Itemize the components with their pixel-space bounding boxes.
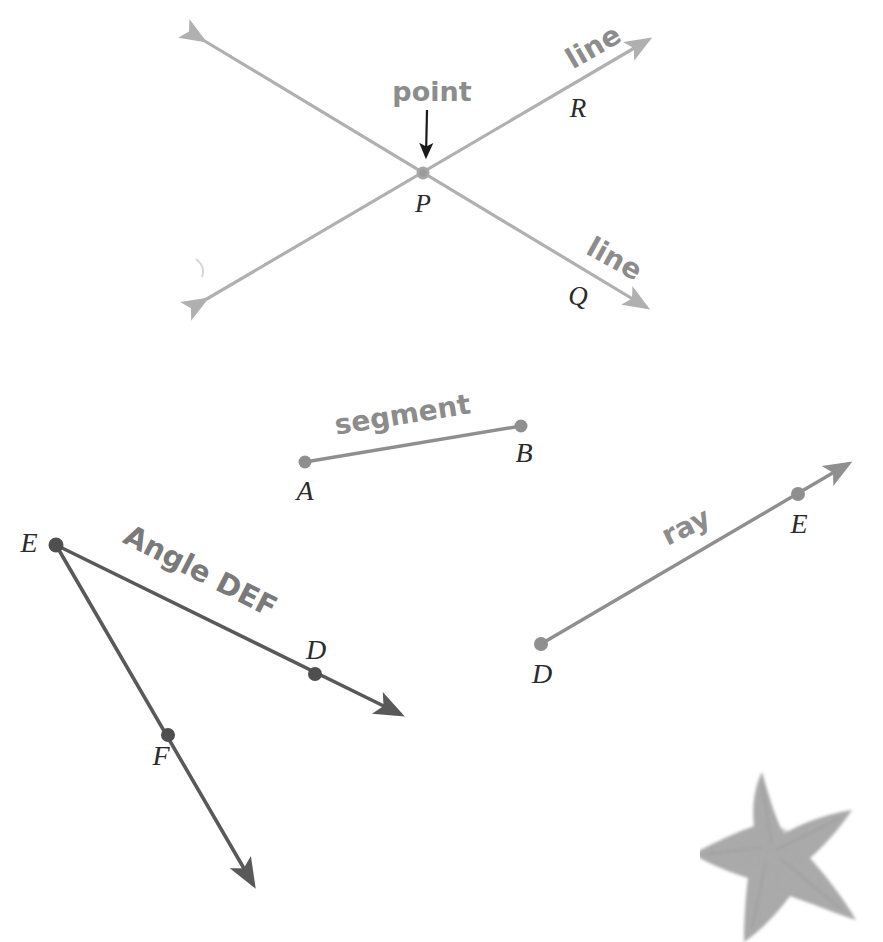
ray-term-label: ray <box>656 501 715 553</box>
ray-endpoint-d-dot <box>534 637 548 651</box>
angle-vertex-e-dot <box>49 538 64 553</box>
line-q-term-label: line <box>581 230 648 287</box>
angle-point-f-label: F <box>151 740 170 771</box>
point-d-dot <box>308 667 322 681</box>
point-a-label: A <box>294 475 314 506</box>
line-r-name-label: R <box>569 93 587 123</box>
point-a-dot <box>299 456 312 469</box>
geometry-diagram-canvas: point P line R line Q segment A B <box>0 0 883 942</box>
point-p-dot-core <box>419 169 426 176</box>
angle-figure: Angle DEF E D F <box>19 518 400 884</box>
ray-figure: ray D E <box>531 464 848 689</box>
ray-endpoint-d-label: D <box>531 658 552 689</box>
point-callout-arrow <box>426 110 427 156</box>
angle-point-d-label: D <box>305 634 326 665</box>
segment-term-label: segment <box>332 388 473 442</box>
line-r-term-label: line <box>560 18 627 76</box>
ray-point-e-label: E <box>789 508 807 539</box>
ray-point-e-dot <box>791 487 805 501</box>
point-p-label: P <box>414 189 431 218</box>
angle-vertex-e-label: E <box>19 527 37 558</box>
angle-term-label: Angle DEF <box>118 518 282 624</box>
stray-pencil-mark <box>196 259 203 277</box>
line-q-name-label: Q <box>568 281 588 311</box>
point-callout-label: point <box>392 76 471 107</box>
segment-figure: segment A B <box>294 388 532 506</box>
diagram-page: point P line R line Q segment A B <box>0 0 883 942</box>
point-b-dot <box>515 420 528 433</box>
intersecting-lines-figure: point P line R line Q <box>196 18 648 311</box>
point-b-label: B <box>515 437 532 468</box>
